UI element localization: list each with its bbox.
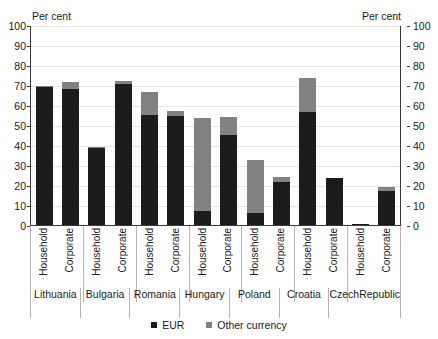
group-label-hungary: Hungary (180, 288, 230, 318)
bar-segment-eur (115, 84, 132, 225)
y-tick-label-left: 70 (14, 81, 26, 92)
y-tick-label-left: 80 (14, 61, 26, 72)
bar-segment-eur (194, 211, 211, 225)
group-label-line: Republic (359, 289, 400, 300)
stacked-bar[interactable] (88, 147, 105, 225)
bar-group (295, 26, 348, 225)
bar-segment-eur (167, 116, 184, 225)
group-label-bulgaria: Bulgaria (81, 288, 131, 318)
stacked-bar[interactable] (247, 160, 264, 225)
bar-segment-other-currency (247, 160, 264, 213)
group-label-croatia: Croatia (280, 288, 330, 318)
x-tick-label-corporate: Corporate (223, 228, 233, 272)
x-tick-label-corporate: Corporate (118, 228, 128, 272)
stacked-bar[interactable] (352, 224, 369, 225)
plot-area (30, 26, 401, 226)
bar-slot (268, 26, 294, 225)
x-tick-label-corporate: Corporate (276, 228, 286, 272)
y-tick-label-right: 80 (413, 61, 425, 72)
y-tick-label-left: 10 (14, 201, 26, 212)
group-label-czech-republic: CzechRepublic (329, 288, 401, 318)
bar-slot (163, 26, 189, 225)
stacked-bar[interactable] (167, 111, 184, 225)
group-label-line: Croatia (287, 289, 321, 300)
bar-slot (295, 26, 321, 225)
x-tick-label-household: Household (198, 228, 208, 276)
y-tick-label-left: 90 (14, 41, 26, 52)
y-tick-label-right: 50 (413, 121, 425, 132)
y-tick-mark (407, 226, 410, 227)
y-tick-label-left: 40 (14, 141, 26, 152)
y-tick-mark (407, 86, 410, 87)
bar-segment-eur (141, 115, 158, 225)
y-tick-mark (407, 126, 410, 127)
bar-slot (31, 26, 57, 225)
legend-item[interactable]: EUR (151, 319, 184, 331)
bar-slot (216, 26, 242, 225)
y-tick-label-right: 90 (413, 41, 425, 52)
y-tick-label-right: 30 (413, 161, 425, 172)
stacked-bar[interactable] (220, 117, 237, 225)
group-label-line: Lithuania (34, 289, 77, 300)
y-tick-mark (407, 146, 410, 147)
y-tick-label-left: 0 (20, 221, 26, 232)
stacked-bar[interactable] (299, 78, 316, 225)
y-tick-label-right: 70 (413, 81, 425, 92)
legend-swatch-icon (151, 322, 157, 328)
x-tick-label-household: Household (303, 228, 313, 276)
bar-segment-eur (88, 148, 105, 225)
y-axis-unit-right: Per cent (362, 10, 401, 22)
bar-slot (242, 26, 268, 225)
group-label-lithuania: Lithuania (30, 288, 81, 318)
group-label-band: LithuaniaBulgariaRomaniaHungaryPolandCro… (30, 288, 401, 318)
y-tick-mark (407, 46, 410, 47)
y-tick-label-right: 100 (413, 21, 431, 32)
bar-segment-eur (220, 135, 237, 225)
y-tick-label-left: 50 (14, 121, 26, 132)
y-tick-mark (407, 66, 410, 67)
bar-group (84, 26, 137, 225)
y-axis-unit-left: Per cent (32, 10, 71, 22)
group-label-line: Poland (238, 289, 271, 300)
bar-segment-other-currency (62, 82, 79, 89)
stacked-bar[interactable] (194, 118, 211, 225)
x-tick-label-corporate: Corporate (382, 228, 392, 272)
bar-group (136, 26, 189, 225)
bar-segment-eur (378, 191, 395, 225)
y-tick-label-right: 40 (413, 141, 425, 152)
x-tick-label-household: Household (92, 228, 102, 276)
bar-segment-eur (352, 224, 369, 225)
stacked-bar[interactable] (62, 82, 79, 225)
bar-segment-eur (326, 178, 343, 225)
stacked-bar[interactable] (378, 187, 395, 225)
x-tick-label-corporate: Corporate (171, 228, 181, 272)
bar-group (347, 26, 400, 225)
x-tick-label-corporate: Corporate (65, 228, 75, 272)
stacked-bar[interactable] (36, 86, 53, 225)
x-tick-label-household: Household (356, 228, 366, 276)
bar-slot (84, 26, 110, 225)
stacked-bar[interactable] (273, 177, 290, 225)
bars-container (31, 26, 400, 225)
y-tick-label-right: 10 (413, 201, 425, 212)
y-tick-mark (407, 166, 410, 167)
y-tick-label-left: 100 (8, 21, 26, 32)
x-tick-label-corporate: Corporate (329, 228, 339, 272)
y-tick-label-right: 0 (413, 221, 419, 232)
x-tick-label-household: Household (39, 228, 49, 276)
y-tick-label-left: 20 (14, 181, 26, 192)
bar-segment-eur (36, 87, 53, 225)
legend-item[interactable]: Other currency (206, 319, 286, 331)
stacked-bar[interactable] (326, 178, 343, 225)
group-label-line: Hungary (185, 289, 225, 300)
y-tick-label-right: 20 (413, 181, 425, 192)
stacked-bar[interactable] (141, 92, 158, 225)
bar-segment-eur (247, 213, 264, 225)
bar-segment-other-currency (220, 117, 237, 136)
group-label-line: Bulgaria (86, 289, 125, 300)
bar-slot (57, 26, 83, 225)
bar-segment-eur (62, 89, 79, 225)
bar-slot (189, 26, 215, 225)
stacked-bar[interactable] (115, 81, 132, 225)
bar-group (31, 26, 84, 225)
